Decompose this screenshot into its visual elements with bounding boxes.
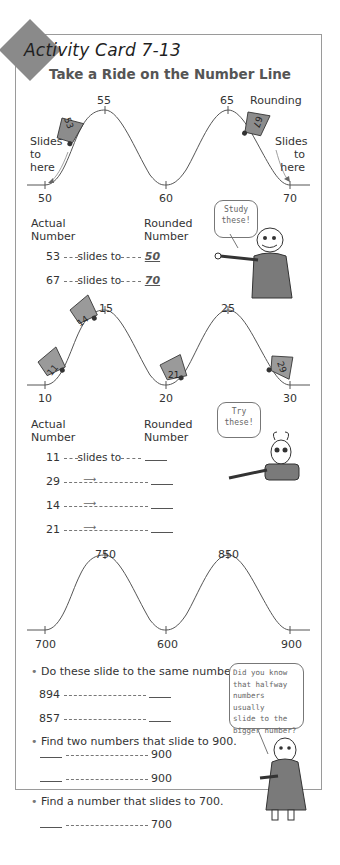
alien-character-icon	[225, 430, 315, 490]
answer-blank-21[interactable]	[151, 532, 173, 533]
peak-label-65: 65	[220, 94, 234, 107]
answer-blank-29[interactable]	[151, 484, 173, 485]
tick-label-600: 600	[157, 638, 178, 651]
page-title: Take a Ride on the Number Line	[0, 66, 340, 82]
answer-blank-700[interactable]	[40, 827, 62, 828]
peak-label-15: 15	[99, 302, 113, 315]
question-slide-to-700: • Find a number that slides to 700.	[31, 795, 223, 808]
exercise-row-11: 11 slides to	[46, 451, 167, 464]
exercise-row-14: 14 ⟶	[46, 499, 173, 512]
car-label-21: 21	[168, 370, 179, 380]
tick-label-50: 50	[38, 192, 52, 205]
q2-row-1: 900	[40, 748, 172, 761]
tick-label-700: 700	[35, 638, 56, 651]
slides-to-here-right: Slidestohere	[275, 135, 305, 174]
example-row-67: 67 slides to 70	[46, 274, 160, 287]
actual-number-header-1: ActualNumber	[31, 217, 75, 243]
peak-label-25: 25	[221, 302, 235, 315]
tick-label-30: 30	[283, 392, 297, 405]
actual-number-header-2: ActualNumber	[31, 418, 75, 444]
answer-blank-900-a[interactable]	[40, 757, 62, 758]
answer-blank-857[interactable]	[149, 721, 171, 722]
exercise-row-21: 21 ⟶	[46, 523, 173, 536]
question-same-number: • Do these slide to the same number?	[31, 665, 241, 678]
speech-bubble-halfway: Did you know that halfway numbers usuall…	[229, 663, 304, 729]
answer-blank-900-b[interactable]	[40, 781, 62, 782]
question-slide-to-900: • Find two numbers that slide to 900.	[31, 735, 237, 748]
hippo-character-icon	[250, 730, 320, 830]
tick-label-60: 60	[159, 192, 173, 205]
card-label: Activity Card 7-13	[24, 40, 181, 60]
roller-coaster-curve-3	[0, 540, 340, 650]
q2-row-2: 900	[40, 772, 172, 785]
example-row-53: 53 slides to 50	[46, 250, 160, 263]
arrow-right-icon: ⟶	[84, 522, 97, 532]
q1-row-894: 894	[39, 688, 171, 701]
exercise-row-29: 29 ⟶	[46, 475, 173, 488]
peak-label-850: 850	[218, 548, 239, 561]
rounding-label: Rounding	[250, 94, 302, 107]
rounded-number-header-1: RoundedNumber	[144, 217, 193, 243]
tick-label-70: 70	[283, 192, 297, 205]
answer-blank-11[interactable]	[145, 460, 167, 461]
peak-label-55: 55	[97, 94, 111, 107]
tick-label-20: 20	[159, 392, 173, 405]
arrow-right-icon: ⟶	[84, 474, 97, 484]
tick-label-900: 900	[281, 638, 302, 651]
roller-coaster-curve-2	[0, 290, 340, 400]
answer-blank-894[interactable]	[149, 697, 171, 698]
answer-blank-14[interactable]	[151, 508, 173, 509]
arrow-right-icon: ⟶	[84, 498, 97, 508]
tick-label-10: 10	[38, 392, 52, 405]
q3-row-1: 700	[40, 818, 172, 831]
slides-to-here-left: Slidestohere	[30, 135, 63, 174]
peak-label-750: 750	[95, 548, 116, 561]
q1-row-857: 857	[39, 712, 171, 725]
rounded-number-header-2: RoundedNumber	[144, 418, 193, 444]
